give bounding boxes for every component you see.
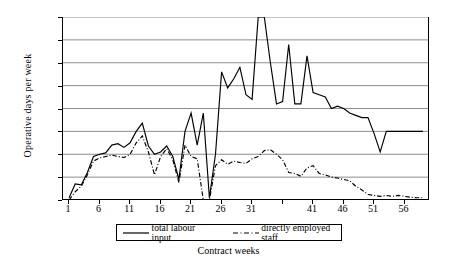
legend-item-directly-employed-staff: directly employed staff: [233, 223, 341, 243]
plot-area: [62, 17, 428, 200]
x-tick-label: 6: [84, 203, 114, 214]
y-tick-mark: [58, 200, 62, 201]
x-tick-label: 26: [206, 203, 236, 214]
x-tick-mark: [282, 200, 283, 204]
x-tick-label: 51: [358, 203, 388, 214]
y-axis-title: Operative days per week: [22, 16, 33, 196]
x-tick-label: 56: [389, 203, 419, 214]
line-chart-figure: Operative days per week 0501001502002503…: [0, 0, 457, 270]
x-tick-label: 11: [114, 203, 144, 214]
x-tick-label: 16: [145, 203, 175, 214]
legend-label-directly-employed-staff: directly employed staff: [261, 223, 341, 243]
series-line-2: [69, 136, 423, 200]
legend-item-total-labour-input: total labour input: [123, 223, 211, 243]
x-tick-label: 41: [297, 203, 327, 214]
chart-legend: total labour input directly employed sta…: [116, 224, 342, 241]
legend-key-solid-line-icon: [123, 229, 147, 237]
series-line-1: [69, 17, 423, 198]
x-tick-label: 21: [175, 203, 205, 214]
plot-canvas: [63, 17, 429, 200]
legend-label-total-labour-input: total labour input: [152, 223, 211, 243]
x-axis-title: Contract weeks: [0, 245, 457, 256]
x-tick-label: 46: [328, 203, 358, 214]
x-tick-label: 1: [53, 203, 83, 214]
x-tick-label: 31: [236, 203, 266, 214]
legend-key-dashed-line-icon: [233, 229, 257, 237]
